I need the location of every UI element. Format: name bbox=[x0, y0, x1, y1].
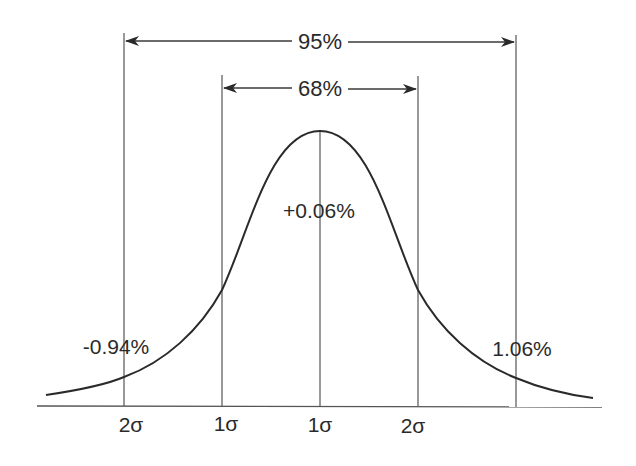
sigma-label-right-1: 1σ bbox=[308, 413, 333, 436]
sigma-label-left-2: 2σ bbox=[119, 413, 144, 436]
minus-2-sigma-value-label: -0.94% bbox=[83, 335, 150, 358]
span-95-label: 95% bbox=[298, 29, 342, 54]
mean-value-label: +0.06% bbox=[283, 199, 355, 222]
sigma-label-right-2: 2σ bbox=[401, 414, 426, 437]
bell-curve-diagram: 95% 68% +0.06% -0.94% 1.06% 2σ 1σ 1σ 2σ bbox=[0, 0, 636, 466]
sigma-label-left-1: 1σ bbox=[214, 412, 239, 435]
plus-2-sigma-value-label: 1.06% bbox=[492, 337, 552, 360]
span-68-label: 68% bbox=[298, 76, 342, 101]
x-axis-baseline bbox=[37, 406, 602, 407]
